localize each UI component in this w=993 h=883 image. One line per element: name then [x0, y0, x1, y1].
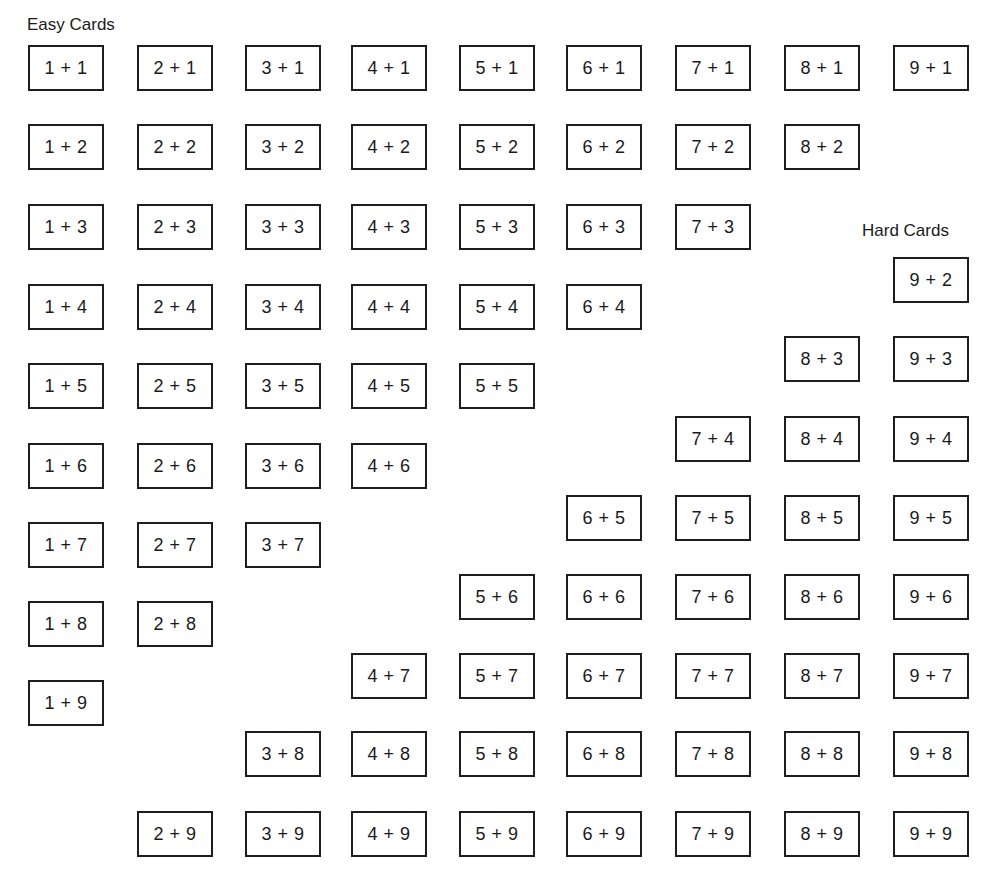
easy-card-5-plus-3: 5 + 3 [459, 204, 535, 250]
hard-card-3-plus-8: 3 + 8 [245, 731, 321, 777]
hard-card-2-plus-9: 2 + 9 [137, 811, 213, 857]
easy-card-2-plus-1: 2 + 1 [137, 45, 213, 91]
hard-card-7-plus-6: 7 + 6 [675, 574, 751, 620]
hard-card-6-plus-6: 6 + 6 [566, 574, 642, 620]
hard-card-5-plus-7: 5 + 7 [459, 653, 535, 699]
easy-card-6-plus-1: 6 + 1 [566, 45, 642, 91]
easy-card-1-plus-1: 1 + 1 [28, 45, 104, 91]
easy-card-2-plus-6: 2 + 6 [137, 443, 213, 489]
hard-card-9-plus-4: 9 + 4 [893, 416, 969, 462]
hard-card-4-plus-9: 4 + 9 [351, 811, 427, 857]
easy-card-8-plus-1: 8 + 1 [784, 45, 860, 91]
hard-card-6-plus-8: 6 + 8 [566, 731, 642, 777]
easy-card-4-plus-1: 4 + 1 [351, 45, 427, 91]
easy-card-8-plus-2: 8 + 2 [784, 124, 860, 170]
easy-card-6-plus-4: 6 + 4 [566, 284, 642, 330]
easy-card-2-plus-3: 2 + 3 [137, 204, 213, 250]
easy-card-4-plus-3: 4 + 3 [351, 204, 427, 250]
easy-card-4-plus-2: 4 + 2 [351, 124, 427, 170]
easy-card-1-plus-9: 1 + 9 [28, 680, 104, 726]
hard-card-9-plus-3: 9 + 3 [893, 336, 969, 382]
easy-card-5-plus-4: 5 + 4 [459, 284, 535, 330]
easy-card-7-plus-1: 7 + 1 [675, 45, 751, 91]
easy-card-3-plus-2: 3 + 2 [245, 124, 321, 170]
hard-card-7-plus-9: 7 + 9 [675, 811, 751, 857]
easy-card-1-plus-2: 1 + 2 [28, 124, 104, 170]
easy-card-5-plus-5: 5 + 5 [459, 363, 535, 409]
easy-card-2-plus-4: 2 + 4 [137, 284, 213, 330]
easy-card-2-plus-7: 2 + 7 [137, 522, 213, 568]
hard-card-9-plus-7: 9 + 7 [893, 653, 969, 699]
hard-card-8-plus-4: 8 + 4 [784, 416, 860, 462]
easy-card-3-plus-7: 3 + 7 [245, 522, 321, 568]
hard-card-5-plus-6: 5 + 6 [459, 574, 535, 620]
easy-card-1-plus-3: 1 + 3 [28, 204, 104, 250]
hard-card-4-plus-7: 4 + 7 [351, 653, 427, 699]
hard-card-6-plus-7: 6 + 7 [566, 653, 642, 699]
hard-card-7-plus-4: 7 + 4 [675, 416, 751, 462]
easy-card-2-plus-2: 2 + 2 [137, 124, 213, 170]
easy-card-9-plus-1: 9 + 1 [893, 45, 969, 91]
hard-card-9-plus-8: 9 + 8 [893, 731, 969, 777]
hard-card-4-plus-8: 4 + 8 [351, 731, 427, 777]
hard-card-8-plus-5: 8 + 5 [784, 495, 860, 541]
easy-card-2-plus-8: 2 + 8 [137, 601, 213, 647]
easy-card-1-plus-6: 1 + 6 [28, 443, 104, 489]
easy-card-1-plus-8: 1 + 8 [28, 601, 104, 647]
easy-card-3-plus-6: 3 + 6 [245, 443, 321, 489]
easy-card-1-plus-7: 1 + 7 [28, 522, 104, 568]
easy-card-3-plus-5: 3 + 5 [245, 363, 321, 409]
easy-card-1-plus-5: 1 + 5 [28, 363, 104, 409]
easy-card-5-plus-1: 5 + 1 [459, 45, 535, 91]
easy-card-1-plus-4: 1 + 4 [28, 284, 104, 330]
hard-cards-label: Hard Cards [862, 221, 949, 241]
easy-card-5-plus-2: 5 + 2 [459, 124, 535, 170]
hard-card-9-plus-2: 9 + 2 [893, 257, 969, 303]
hard-card-8-plus-7: 8 + 7 [784, 653, 860, 699]
hard-card-5-plus-9: 5 + 9 [459, 811, 535, 857]
hard-card-8-plus-3: 8 + 3 [784, 336, 860, 382]
hard-card-3-plus-9: 3 + 9 [245, 811, 321, 857]
hard-card-8-plus-8: 8 + 8 [784, 731, 860, 777]
hard-card-8-plus-9: 8 + 9 [784, 811, 860, 857]
easy-card-3-plus-4: 3 + 4 [245, 284, 321, 330]
easy-card-6-plus-2: 6 + 2 [566, 124, 642, 170]
easy-card-4-plus-5: 4 + 5 [351, 363, 427, 409]
easy-card-4-plus-4: 4 + 4 [351, 284, 427, 330]
easy-cards-label: Easy Cards [27, 15, 115, 35]
easy-card-6-plus-3: 6 + 3 [566, 204, 642, 250]
hard-card-7-plus-7: 7 + 7 [675, 653, 751, 699]
hard-card-9-plus-6: 9 + 6 [893, 574, 969, 620]
hard-card-7-plus-5: 7 + 5 [675, 495, 751, 541]
easy-card-3-plus-1: 3 + 1 [245, 45, 321, 91]
hard-card-7-plus-8: 7 + 8 [675, 731, 751, 777]
hard-card-9-plus-9: 9 + 9 [893, 811, 969, 857]
hard-card-9-plus-5: 9 + 5 [893, 495, 969, 541]
easy-card-7-plus-2: 7 + 2 [675, 124, 751, 170]
easy-card-2-plus-5: 2 + 5 [137, 363, 213, 409]
hard-card-5-plus-8: 5 + 8 [459, 731, 535, 777]
easy-card-4-plus-6: 4 + 6 [351, 443, 427, 489]
hard-card-8-plus-6: 8 + 6 [784, 574, 860, 620]
hard-card-6-plus-5: 6 + 5 [566, 495, 642, 541]
easy-card-7-plus-3: 7 + 3 [675, 204, 751, 250]
hard-card-6-plus-9: 6 + 9 [566, 811, 642, 857]
easy-card-3-plus-3: 3 + 3 [245, 204, 321, 250]
